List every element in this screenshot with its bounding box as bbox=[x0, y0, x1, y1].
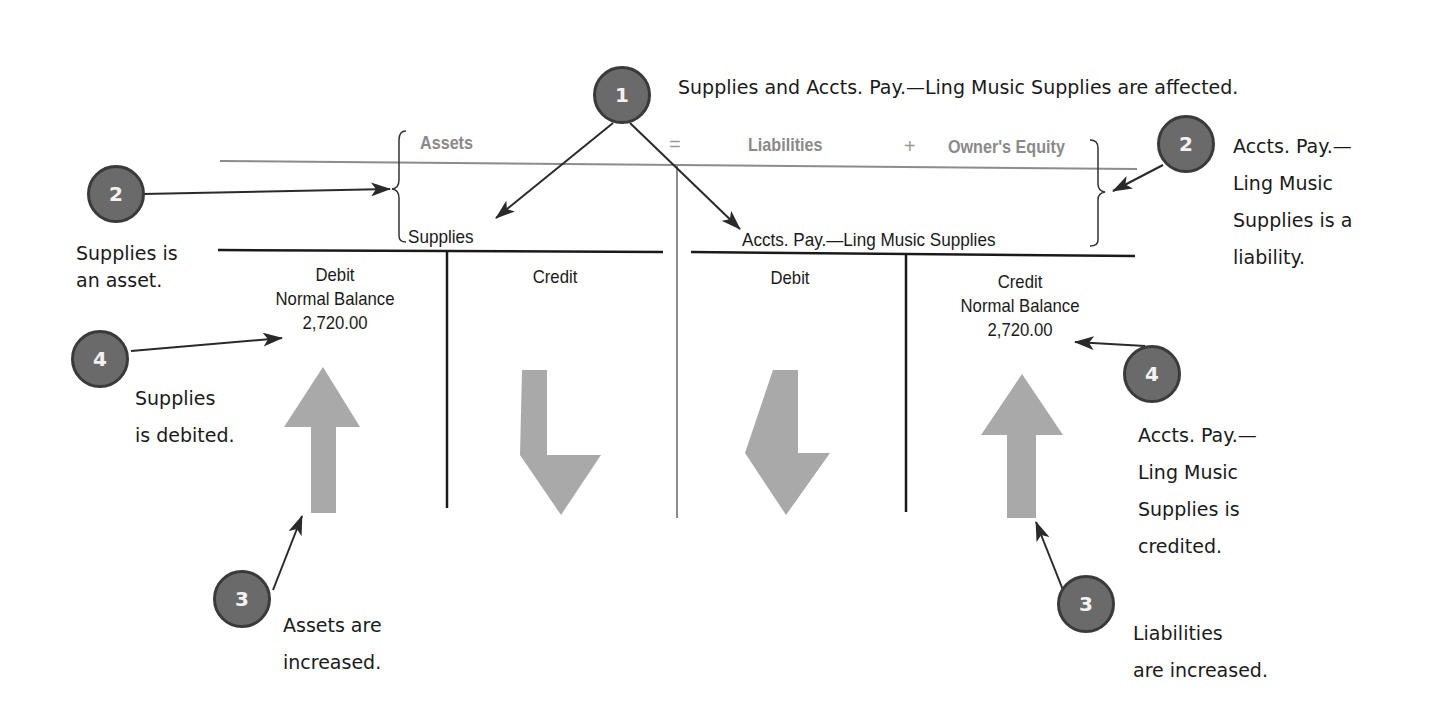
increase-arrow-right bbox=[981, 374, 1063, 518]
step-2-left-text: Supplies is an asset. bbox=[76, 240, 178, 294]
equation-owners-equity: Owner's Equity bbox=[948, 135, 1065, 159]
pointer-4-left bbox=[131, 338, 282, 351]
step-1-badge: 1 bbox=[593, 66, 651, 124]
step-2-right-badge: 2 bbox=[1157, 115, 1215, 173]
step-2-right-text: Accts. Pay.— Ling Music Supplies is a li… bbox=[1233, 128, 1352, 276]
equation-equals: = bbox=[669, 132, 681, 156]
step-1-text: Supplies and Accts. Pay.—Ling Music Supp… bbox=[678, 74, 1238, 101]
step-4-right-badge: 4 bbox=[1123, 345, 1181, 403]
left-debit-amount: 2,720.00 bbox=[260, 311, 410, 335]
right-credit-label: Credit bbox=[945, 270, 1095, 294]
equation-liabilities: Liabilities bbox=[748, 133, 822, 157]
increase-arrow-left bbox=[284, 367, 360, 513]
step-3-right-badge: 3 bbox=[1057, 575, 1115, 633]
step-2-left-badge: 2 bbox=[87, 165, 145, 223]
pointer-4-right bbox=[1075, 342, 1145, 346]
step-3-left-badge: 3 bbox=[213, 570, 271, 628]
t-account-left-top bbox=[218, 250, 663, 252]
right-credit-amount: 2,720.00 bbox=[945, 318, 1095, 342]
liabilities-brace bbox=[1090, 140, 1105, 246]
step-4-left-badge: 4 bbox=[71, 330, 129, 388]
step-4-left-text: Supplies is debited. bbox=[135, 380, 235, 454]
pointer-2-left bbox=[143, 189, 390, 194]
equation-line bbox=[220, 161, 1137, 169]
step-4-right-text: Accts. Pay.— Ling Music Supplies is cred… bbox=[1138, 417, 1257, 565]
left-credit-label: Credit bbox=[480, 265, 630, 289]
left-debit-normal-balance: Normal Balance bbox=[260, 287, 410, 311]
equation-plus: + bbox=[904, 134, 916, 158]
pointer-1-to-accts-pay bbox=[630, 123, 740, 229]
decrease-arrow-right-debit bbox=[745, 370, 830, 515]
step-3-left-text: Assets are increased. bbox=[283, 607, 382, 681]
right-credit-normal-balance: Normal Balance bbox=[945, 294, 1095, 318]
step-3-right-text: Liabilities are increased. bbox=[1133, 615, 1268, 689]
pointer-3-left bbox=[273, 516, 302, 590]
decrease-arrow-left-credit bbox=[520, 370, 601, 515]
assets-brace bbox=[392, 131, 406, 242]
equation-assets: Assets bbox=[420, 131, 473, 155]
account-title-accts-pay: Accts. Pay.—Ling Music Supplies bbox=[742, 228, 995, 252]
pointer-1-to-supplies bbox=[496, 123, 613, 218]
t-account-right-top bbox=[691, 252, 1135, 256]
left-debit-column: Debit Normal Balance 2,720.00 bbox=[260, 263, 410, 335]
pointer-3-right bbox=[1036, 522, 1063, 590]
right-credit-column: Credit Normal Balance 2,720.00 bbox=[945, 270, 1095, 342]
right-debit-label: Debit bbox=[715, 266, 865, 290]
left-debit-label: Debit bbox=[260, 263, 410, 287]
account-title-supplies: Supplies bbox=[408, 225, 474, 249]
